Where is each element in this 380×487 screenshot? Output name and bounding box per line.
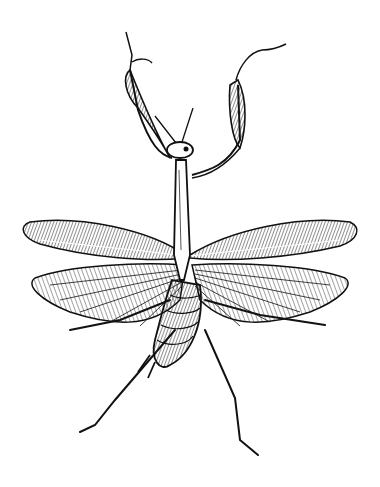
illustration-canvas <box>0 0 380 487</box>
foreleg-left <box>126 32 172 158</box>
forewing-right <box>190 220 357 259</box>
mantis-illustration <box>0 0 380 487</box>
thorax <box>174 160 190 280</box>
foreleg-right <box>192 44 286 178</box>
forewing-left <box>23 220 185 259</box>
head <box>155 108 193 158</box>
